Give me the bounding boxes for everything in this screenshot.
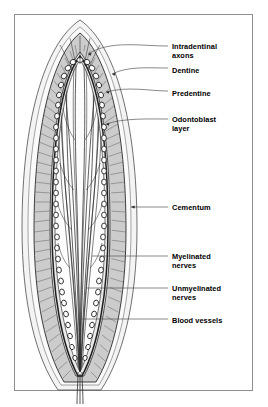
label-dentine: Dentine [172,66,199,75]
label-odontoblast-layer: Odontoblast layer [172,115,216,133]
figure-page: Intradentinal axons Dentine Predentine O… [0,0,268,407]
label-myelinated-nerves: Myelinated nerves [172,252,211,270]
label-intradentinal-axons: Intradentinal axons [172,42,217,60]
label-unmyelinated-nerves: Unmyelinated nerves [172,284,221,302]
leader-dentine [112,68,168,74]
label-cementum: Cementum [172,203,211,212]
label-blood-vessels: Blood vessels [172,316,222,325]
tooth-section-diagram [0,0,268,407]
label-predentine: Predentine [172,89,211,98]
